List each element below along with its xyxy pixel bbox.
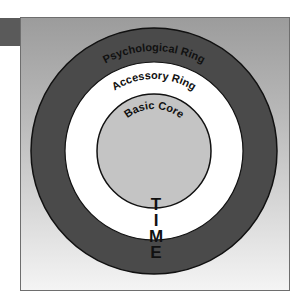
time-letter-e: E (150, 243, 161, 262)
basic-core (97, 94, 211, 208)
ring-diagram: Psychological Ring Accessory Ring Basic … (0, 0, 307, 306)
